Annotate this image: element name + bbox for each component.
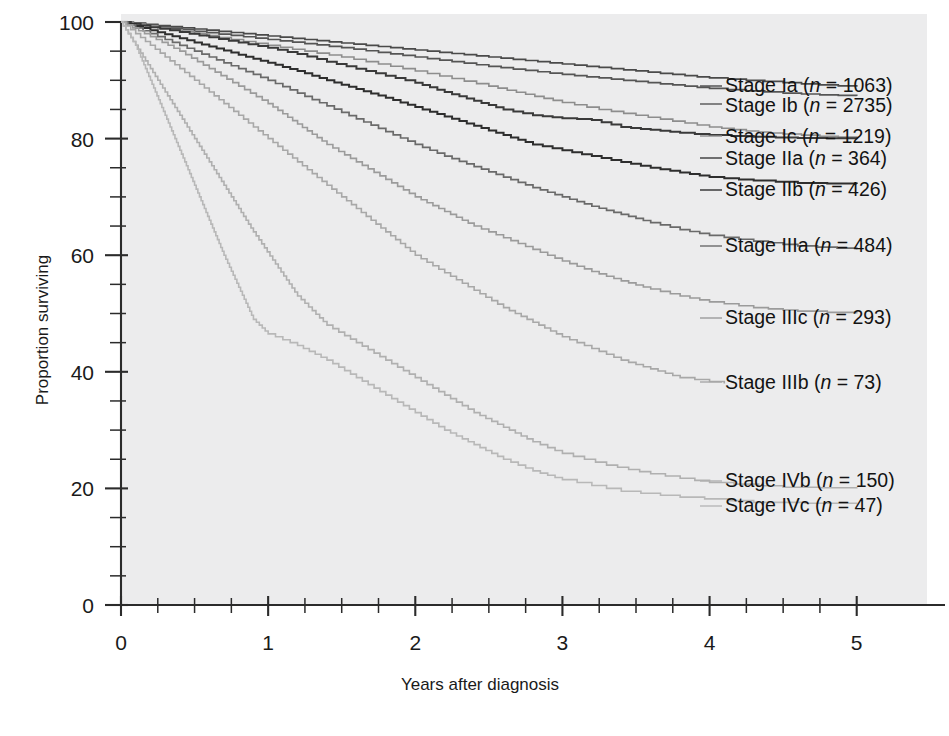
y-tick-label: 20 [71, 477, 94, 500]
series-label-ia: Stage Ia (n = 1063) [725, 74, 893, 96]
series-label-iia: Stage IIa (n = 364) [725, 147, 887, 169]
y-tick-label: 100 [59, 11, 94, 34]
x-tick-label: 5 [851, 631, 863, 654]
series-label-ib: Stage Ib (n = 2735) [725, 94, 893, 116]
x-tick-label: 1 [262, 631, 274, 654]
series-label-ivb: Stage IVb (n = 150) [725, 469, 895, 491]
x-tick-label: 0 [115, 631, 127, 654]
series-label-iiia: Stage IIIa (n = 484) [725, 234, 893, 256]
y-tick-label: 80 [71, 128, 94, 151]
x-tick-label: 3 [557, 631, 569, 654]
x-axis-title: Years after diagnosis [401, 675, 559, 694]
x-tick-label: 2 [409, 631, 421, 654]
series-label-iiib: Stage IIIb (n = 73) [725, 371, 882, 393]
y-axis-title: Proportion surviving [33, 255, 52, 405]
y-tick-label: 0 [82, 594, 94, 617]
series-label-iiic: Stage IIIc (n = 293) [725, 306, 891, 328]
series-label-ic: Stage Ic (n = 1219) [725, 125, 891, 147]
y-tick-label: 60 [71, 244, 94, 267]
x-tick-label: 4 [704, 631, 716, 654]
series-label-ivc: Stage IVc (n = 47) [725, 494, 883, 516]
series-label-iib: Stage IIb (n = 426) [725, 178, 887, 200]
y-tick-label: 40 [71, 361, 94, 384]
survival-chart-figure: 020406080100 012345 Stage Ia (n = 1063)S… [0, 0, 949, 736]
